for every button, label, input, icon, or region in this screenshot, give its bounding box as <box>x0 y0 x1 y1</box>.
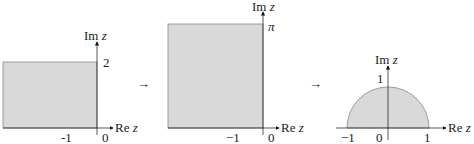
panel-2-rectangle: Im z Re z π −1 0 <box>168 0 304 144</box>
im-axis-label: Im z <box>252 0 275 14</box>
x-tick-label: -1 <box>61 130 72 144</box>
y-tick-label: 2 <box>103 55 110 70</box>
x-tick-label: −1 <box>226 130 240 144</box>
y-tick-label: 1 <box>377 71 384 86</box>
x-tick-label: 0 <box>376 130 383 144</box>
shaded-region <box>168 24 263 128</box>
shaded-region <box>3 62 97 128</box>
y-tick-label: π <box>268 19 275 34</box>
x-tick-label: 1 <box>424 130 431 144</box>
mapping-arrow: → <box>137 76 150 91</box>
re-axis-label: Re z <box>115 120 138 135</box>
panel-3-half-disk: Im z Re z 1 −1 0 1 <box>336 52 471 144</box>
x-tick-label: 0 <box>268 130 275 144</box>
im-axis-label: Im z <box>84 28 107 43</box>
panel-1-rectangle: Im z Re z 2 -1 0 <box>3 28 138 144</box>
conformal-map-diagram: Im z Re z 2 -1 0 → Im z Re z π −1 0 → Im… <box>0 0 474 144</box>
im-axis-label: Im z <box>375 52 398 67</box>
x-tick-label: 0 <box>102 130 109 144</box>
re-axis-label: Re z <box>281 120 304 135</box>
re-axis-label: Re z <box>448 120 471 135</box>
mapping-arrow: → <box>309 76 322 91</box>
x-tick-label: −1 <box>341 130 355 144</box>
